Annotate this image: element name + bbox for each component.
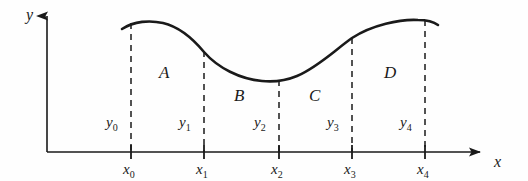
integration-trapezoid-diagram: y x A B C D y0: [0, 0, 528, 181]
region-label-a: A: [158, 63, 170, 82]
region-label-c: C: [309, 86, 321, 105]
y-label-3: y3: [325, 114, 339, 133]
x-label-4: x4: [416, 161, 429, 180]
y-label-2: y2: [252, 114, 266, 133]
y-ordinate-labels: y0 y1 y2 y3 y4: [104, 114, 412, 133]
y-label-0: y0: [104, 114, 118, 133]
region-label-b: B: [234, 86, 245, 105]
y-axis-label: y: [24, 6, 34, 24]
region-label-d: D: [383, 63, 397, 82]
x-label-2: x2: [270, 161, 283, 180]
x-label-1: x1: [195, 161, 208, 180]
x-axis-label: x: [493, 153, 501, 170]
x-label-0: x0: [122, 161, 135, 180]
y-label-1: y1: [177, 114, 191, 133]
y-label-4: y4: [398, 114, 412, 133]
ordinate-dashed-lines: [131, 20, 425, 152]
figure-container: y x A B C D y0: [0, 0, 528, 181]
x-tick-labels: x0 x1 x2 x3 x4: [122, 161, 429, 180]
x-label-3: x3: [343, 161, 356, 180]
